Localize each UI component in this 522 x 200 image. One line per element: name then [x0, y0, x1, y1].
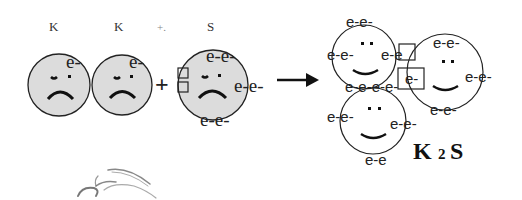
potassium-atom-2: e-: [92, 51, 152, 115]
product-potassium-bottom: e-e- e-e- e-e: [327, 88, 417, 168]
electron-label: e-: [129, 51, 144, 72]
electron-pair-bottom: e-e-: [430, 101, 457, 118]
product-sulfur: e- e-e- e-e- e-e-: [398, 34, 492, 118]
electron-pair-top: e-e-: [433, 34, 460, 51]
label-k1: K: [49, 19, 59, 34]
electron-pair-top: e-e-: [346, 13, 373, 30]
label-s: S: [207, 19, 214, 34]
electron-pair-top: e-e-: [206, 45, 236, 66]
electron-pair-bottom: e-e: [365, 151, 387, 168]
ionic-bond-diagram: K K +. S e- e- + e-e- e-e- e-e-: [0, 0, 522, 200]
potassium-atom-1: e-: [28, 51, 90, 116]
boxed-electron: e-: [405, 70, 418, 87]
electron-pair-right: e-e-: [234, 75, 264, 96]
plus-sign: +: [155, 71, 169, 97]
formula-k: K: [413, 138, 432, 164]
formula-k2s: K 2 S: [413, 138, 463, 164]
electron-pair-right: e-e-: [465, 68, 492, 85]
electron-pair-left: e-e-: [327, 46, 354, 63]
sketch-decoration: [78, 169, 156, 198]
label-k2: K: [114, 19, 124, 34]
reaction-arrow-icon: [277, 73, 319, 87]
formula-subscript: 2: [438, 146, 446, 162]
formula-s: S: [450, 138, 463, 164]
product-potassium-top: e-e- e-e- e-e e-e-e-e-: [327, 13, 403, 95]
electron-pair-left: e-e-: [327, 108, 354, 125]
electron-pair-right: e-e-: [390, 115, 417, 132]
sulfur-atom: e-e- e-e- e-e-: [178, 45, 264, 130]
electron-pair-bottom: e-e-: [200, 109, 230, 130]
label-plus: +.: [157, 21, 166, 33]
electron-label: e-: [66, 51, 81, 72]
